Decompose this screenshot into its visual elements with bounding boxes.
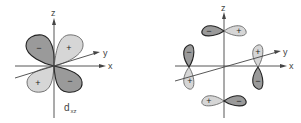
- orbital-label-subscript: xz: [71, 108, 77, 114]
- dxz-lobe-lower-right: −: [54, 66, 82, 92]
- minus-sign: −: [236, 96, 241, 106]
- x-axis-label: x: [289, 61, 294, 71]
- lobe-pair-left: − +: [184, 45, 194, 89]
- dxz-diagram: − + + − z x y dxz: [15, 8, 113, 118]
- z-axis-label: z: [51, 8, 56, 18]
- y-arrow-icon: [93, 51, 100, 55]
- z-axis-label: z: [221, 3, 226, 13]
- x-arrow-icon: [280, 64, 287, 68]
- z-arrow-icon: [52, 18, 56, 25]
- plus-sign: +: [206, 96, 211, 106]
- plus-sign: +: [255, 47, 260, 57]
- minus-sign: −: [186, 47, 191, 57]
- y-arrow-icon: [274, 50, 281, 54]
- x-axis-label: x: [108, 61, 113, 71]
- minus-sign: −: [206, 26, 211, 36]
- minus-sign: −: [255, 76, 260, 86]
- orbital-diagrams: − + + − z x y dxz z x: [0, 0, 301, 123]
- y-axis-label: y: [283, 47, 288, 57]
- x-arrow-icon: [99, 64, 106, 68]
- minus-sign: −: [36, 43, 41, 53]
- dxz-lobe-upper-left: −: [26, 35, 54, 66]
- minus-sign: −: [67, 76, 72, 86]
- plus-sign: +: [66, 43, 71, 53]
- plus-sign: +: [35, 78, 40, 88]
- orbital-label-main: d: [64, 102, 70, 113]
- plus-sign: +: [236, 26, 241, 36]
- z-arrow-icon: [222, 12, 226, 19]
- p-ring-diagram: z x − + + − − + + −: [175, 3, 294, 118]
- lobe-pair-right: + −: [253, 45, 263, 89]
- y-axis-label: y: [103, 48, 108, 58]
- orbital-label: dxz: [64, 102, 77, 114]
